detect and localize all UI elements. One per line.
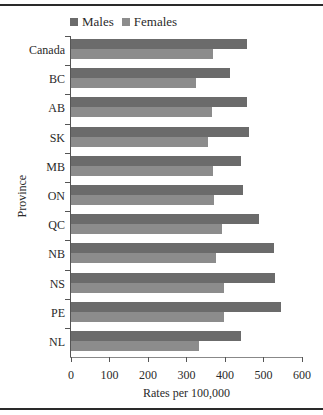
bar-males-canada — [71, 39, 247, 49]
bar-males-pe — [71, 302, 281, 312]
bar-females-ab — [71, 107, 212, 117]
y-tick — [65, 94, 70, 95]
y-tick — [65, 211, 70, 212]
x-tick — [225, 357, 226, 362]
bar-males-qc — [71, 214, 259, 224]
category-label: AB — [48, 101, 65, 116]
x-tick-label: 500 — [244, 368, 284, 383]
legend: Males Females — [70, 14, 177, 30]
y-tick — [65, 182, 70, 183]
category-label: BC — [49, 72, 65, 87]
bar-females-nb — [71, 253, 216, 263]
bar-males-bc — [71, 68, 230, 78]
x-tick — [186, 357, 187, 362]
y-tick — [65, 153, 70, 154]
bar-females-canada — [71, 49, 213, 59]
y-tick — [65, 65, 70, 66]
y-tick — [65, 328, 70, 329]
males-swatch-icon — [70, 18, 78, 26]
bar-males-nl — [71, 331, 241, 341]
bar-females-pe — [71, 312, 224, 322]
category-label: NB — [48, 247, 65, 262]
y-tick — [65, 124, 70, 125]
legend-label-females: Females — [134, 14, 177, 30]
legend-item-females: Females — [122, 14, 177, 30]
category-label: QC — [48, 218, 65, 233]
bar-females-on — [71, 195, 214, 205]
y-axis-title: Province — [15, 178, 30, 218]
x-axis-title: Rates per 100,000 — [71, 386, 302, 401]
top-border — [0, 4, 323, 6]
x-tick — [148, 357, 149, 362]
bar-females-nl — [71, 341, 199, 351]
bottom-border — [0, 408, 323, 410]
x-tick — [302, 357, 303, 362]
legend-item-males: Males — [70, 14, 114, 30]
y-tick — [65, 270, 70, 271]
bar-males-on — [71, 185, 243, 195]
bar-males-sk — [71, 127, 249, 137]
category-label: MB — [46, 160, 65, 175]
x-tick-label: 300 — [167, 368, 207, 383]
bar-males-ns — [71, 273, 275, 283]
bar-females-ns — [71, 283, 224, 293]
y-tick — [65, 240, 70, 241]
bar-males-nb — [71, 243, 274, 253]
x-tick-label: 400 — [205, 368, 245, 383]
category-label: NS — [50, 277, 65, 292]
legend-label-males: Males — [82, 14, 114, 30]
y-tick — [65, 299, 70, 300]
x-tick-label: 200 — [128, 368, 168, 383]
x-tick — [109, 357, 110, 362]
x-tick — [71, 357, 72, 362]
bar-males-mb — [71, 156, 241, 166]
y-tick — [65, 36, 70, 37]
bar-females-qc — [71, 224, 222, 234]
females-swatch-icon — [122, 18, 130, 26]
category-label: ON — [48, 189, 65, 204]
category-label: Canada — [29, 43, 65, 58]
bar-females-sk — [71, 137, 208, 147]
bar-females-bc — [71, 78, 196, 88]
bar-females-mb — [71, 166, 213, 176]
x-tick-label: 0 — [51, 368, 91, 383]
category-label: SK — [50, 131, 65, 146]
x-tick — [263, 357, 264, 362]
x-tick-label: 600 — [282, 368, 322, 383]
category-label: NL — [49, 335, 65, 350]
x-tick-label: 100 — [90, 368, 130, 383]
category-label: PE — [51, 306, 65, 321]
bar-males-ab — [71, 97, 247, 107]
